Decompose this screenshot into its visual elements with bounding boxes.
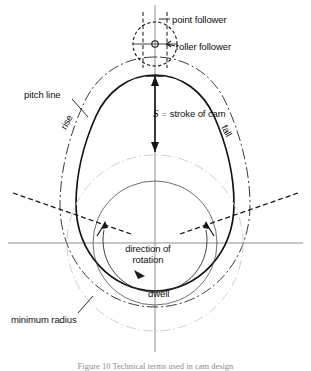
minimum-radius-leader xyxy=(78,296,93,313)
label-dwell: dwell xyxy=(148,288,169,299)
stroke-symbol: S xyxy=(153,108,158,119)
stroke-equals-sign: = xyxy=(160,108,167,119)
label-stroke-of-cam: S = stroke of cam xyxy=(153,108,226,119)
label-point-follower: point follower xyxy=(172,14,227,25)
tangent-right-dashed xyxy=(180,193,298,234)
rotation-arrowhead xyxy=(134,270,145,279)
label-pitch-line: pitch line xyxy=(24,89,61,100)
figure-caption: Figure 10 Technical terms used in cam de… xyxy=(0,361,311,371)
label-roller-follower: roller follower xyxy=(176,41,231,52)
stroke-arrowhead-bottom xyxy=(151,142,159,152)
stroke-arrowhead-top xyxy=(151,76,159,86)
label-minimum-radius: minimum radius xyxy=(11,314,77,325)
pitch-line-leader xyxy=(72,99,88,117)
label-direction-of-rotation: direction of rotation xyxy=(111,243,185,265)
stroke-of-cam-text: stroke of cam xyxy=(170,108,226,119)
